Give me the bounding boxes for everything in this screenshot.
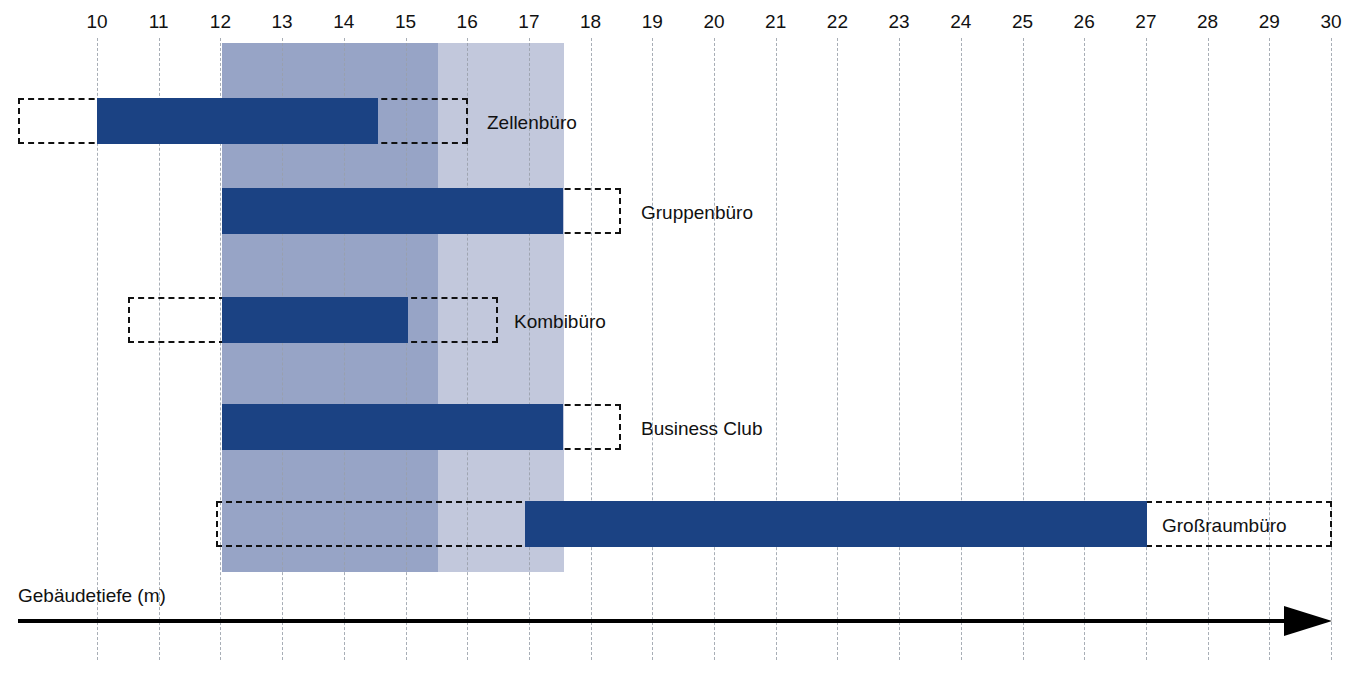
tick-label-19: 19 (632, 12, 672, 31)
right-arrow-icon (1284, 606, 1332, 636)
row-label-gruppenbuero: Gruppenbüro (641, 203, 753, 222)
tick-label-30: 30 (1311, 12, 1347, 31)
bar-row-kombibuero (0, 297, 1347, 343)
solid-range-business-club[interactable] (222, 404, 563, 450)
x-axis-line (18, 619, 1288, 623)
bar-row-zellenbuero (0, 98, 1347, 144)
tick-label-17: 17 (509, 12, 549, 31)
row-label-grossraumbuero: Großraumbüro (1162, 516, 1287, 535)
tick-label-29: 29 (1249, 12, 1289, 31)
tick-label-20: 20 (694, 12, 734, 31)
tick-label-23: 23 (879, 12, 919, 31)
tick-label-24: 24 (941, 12, 981, 31)
tick-label-10: 10 (77, 12, 117, 31)
tick-label-28: 28 (1188, 12, 1228, 31)
tick-label-21: 21 (756, 12, 796, 31)
tick-label-11: 11 (139, 12, 179, 31)
bar-row-grossraumbuero (0, 501, 1347, 547)
tick-label-16: 16 (447, 12, 487, 31)
tick-label-27: 27 (1126, 12, 1166, 31)
tick-label-15: 15 (386, 12, 426, 31)
chart-canvas: 1011121314151617181920212223242526272829… (0, 0, 1347, 680)
solid-range-zellenbuero[interactable] (97, 98, 378, 144)
row-label-kombibuero: Kombibüro (514, 312, 606, 331)
tick-label-12: 12 (200, 12, 240, 31)
row-label-zellenbuero: Zellenbüro (487, 113, 577, 132)
tick-label-22: 22 (817, 12, 857, 31)
tick-label-25: 25 (1003, 12, 1043, 31)
solid-range-kombibuero[interactable] (222, 297, 408, 343)
tick-label-26: 26 (1064, 12, 1104, 31)
x-axis-title: Gebäudetiefe (m) (18, 586, 166, 605)
solid-range-grossraumbuero[interactable] (525, 501, 1147, 547)
row-label-business-club: Business Club (641, 419, 762, 438)
tick-label-18: 18 (571, 12, 611, 31)
tick-label-14: 14 (324, 12, 364, 31)
solid-range-gruppenbuero[interactable] (222, 188, 563, 234)
tick-label-13: 13 (262, 12, 302, 31)
